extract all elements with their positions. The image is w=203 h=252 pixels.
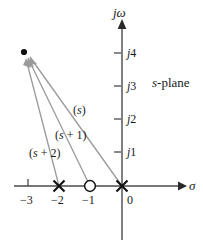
vector-line-s-plus-2 xyxy=(26,59,59,186)
vector-arrowheads xyxy=(23,57,37,68)
diagram-canvas xyxy=(0,0,203,252)
vector-lines xyxy=(26,57,122,186)
vector-label-s-plus-1: (s + 1) xyxy=(55,129,86,141)
jomega-axis-label: jω xyxy=(113,6,126,19)
sigma-tick-label-minus-1: −1 xyxy=(82,194,95,206)
s-plane-diagram: jω σ j4 j3 j2 j1 −3 −2 −1 0 (s) (s + 1) … xyxy=(0,0,203,252)
jomega-axis-arrow xyxy=(118,19,127,29)
jomega-tick-label-j1: j1 xyxy=(127,146,136,158)
vector-label-s-plus-2: (s + 2) xyxy=(29,147,60,159)
vector-line-s-plus-1 xyxy=(28,58,90,186)
sigma-tick-label-0: 0 xyxy=(127,194,133,206)
sigma-axis-label: σ xyxy=(189,179,195,192)
sigma-tick-label-minus-2: −2 xyxy=(51,194,64,206)
s-plane-label: s-plane xyxy=(152,76,190,89)
jomega-tick-label-j2: j2 xyxy=(127,113,136,125)
sigma-axis xyxy=(14,182,187,191)
zero-marker-minus-1 xyxy=(85,181,96,192)
jomega-axis xyxy=(118,19,127,240)
jomega-axis-ticks xyxy=(114,53,121,152)
vector-line-s xyxy=(30,57,122,186)
sigma-axis-arrow xyxy=(178,182,187,191)
vector-label-s: (s) xyxy=(73,104,86,116)
sigma-tick-label-minus-3: −3 xyxy=(20,194,33,206)
jomega-tick-label-j3: j3 xyxy=(127,80,136,92)
test-point-marker xyxy=(21,49,27,55)
jomega-tick-label-j4: j4 xyxy=(127,47,136,59)
